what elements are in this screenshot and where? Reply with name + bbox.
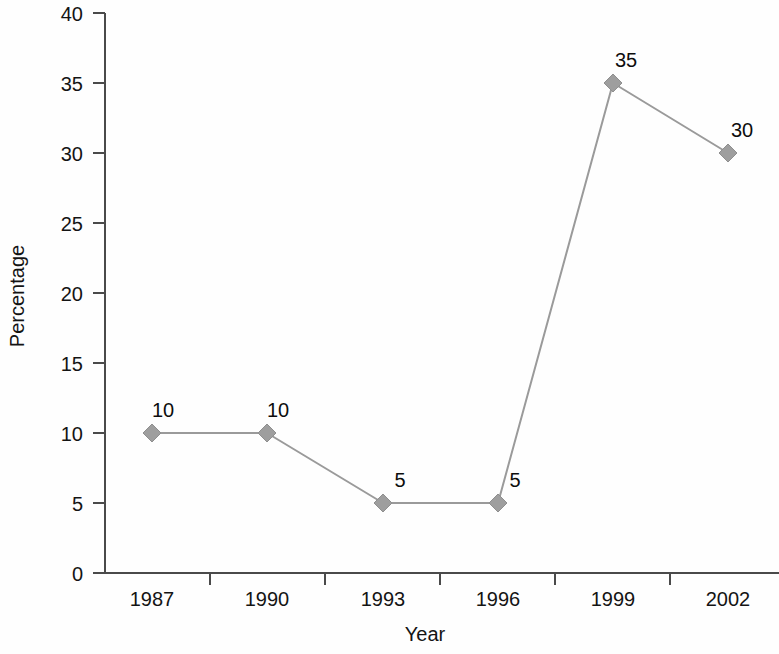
x-axis-title: Year [375, 624, 475, 644]
point-label-1999: 35 [596, 50, 656, 70]
y-tick-label-40: 40 [28, 4, 83, 24]
x-tick-label-1993: 1993 [333, 589, 433, 609]
y-tick-label-15: 15 [28, 354, 83, 374]
x-tick-label-1999: 1999 [563, 589, 663, 609]
y-tick-label-5: 5 [28, 494, 83, 514]
x-tick-label-1987: 1987 [102, 589, 202, 609]
point-label-1996: 5 [485, 470, 545, 490]
x-tick-label-2002: 2002 [678, 589, 778, 609]
y-tick-label-10: 10 [28, 424, 83, 444]
y-tick-label-25: 25 [28, 214, 83, 234]
y-tick-label-0: 0 [28, 564, 83, 584]
x-axis-ticks [210, 573, 670, 585]
y-tick-label-35: 35 [28, 74, 83, 94]
series-line-percentage [152, 83, 728, 503]
x-tick-label-1990: 1990 [217, 589, 317, 609]
series-markers [143, 74, 737, 512]
x-tick-label-1996: 1996 [448, 589, 548, 609]
y-tick-label-20: 20 [28, 284, 83, 304]
data-point-1996 [489, 494, 507, 512]
data-point-1990 [258, 424, 276, 442]
point-label-1987: 10 [133, 400, 193, 420]
data-point-1999 [604, 74, 622, 92]
data-point-2002 [719, 144, 737, 162]
chart-plot-area [0, 0, 779, 654]
y-axis-ticks [93, 13, 105, 573]
data-point-1993 [374, 494, 392, 512]
data-point-1987 [143, 424, 161, 442]
y-tick-label-30: 30 [28, 144, 83, 164]
line-chart: 40 35 30 25 20 15 10 5 0 1987 1990 1993 … [0, 0, 779, 654]
point-label-2002: 30 [712, 120, 772, 140]
point-label-1990: 10 [248, 400, 308, 420]
point-label-1993: 5 [370, 470, 430, 490]
y-axis-title: Percentage [7, 226, 27, 366]
